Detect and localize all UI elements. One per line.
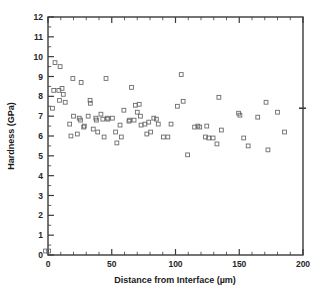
y-tick-label: 8 bbox=[38, 91, 43, 101]
y-tick-label: 0 bbox=[38, 250, 43, 260]
y-tick-label: 6 bbox=[38, 131, 43, 141]
x-tick-label: 0 bbox=[46, 259, 51, 269]
x-tick-label: 200 bbox=[296, 259, 310, 269]
y-tick-label: 5 bbox=[38, 151, 43, 161]
x-tick-label: 100 bbox=[168, 259, 182, 269]
y-tick-label: 1 bbox=[38, 230, 43, 240]
y-tick-label: 7 bbox=[38, 111, 43, 121]
y-tick-label: 2 bbox=[38, 210, 43, 220]
y-tick-label: 9 bbox=[38, 72, 43, 82]
x-tick-label: 50 bbox=[107, 259, 117, 269]
y-tick-label: 11 bbox=[34, 32, 43, 42]
y-axis-label: Hardness (GPa) bbox=[6, 102, 16, 170]
hardness-vs-distance-scatter-chart: 050100150200 0123456789101112 Distance f… bbox=[0, 0, 321, 296]
y-tick-label: 4 bbox=[38, 171, 43, 181]
x-axis-label: Distance from Interface (µm) bbox=[114, 275, 236, 285]
x-tick-label: 150 bbox=[232, 259, 246, 269]
y-tick-label: 10 bbox=[34, 52, 44, 62]
y-tick-label: 3 bbox=[38, 191, 43, 201]
y-tick-label: 12 bbox=[34, 12, 44, 22]
